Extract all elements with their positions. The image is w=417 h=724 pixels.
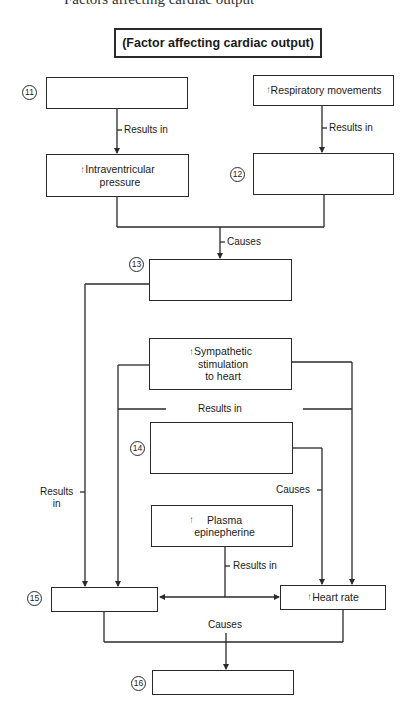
blank-number-14: 14 <box>130 441 145 456</box>
blank-number-12: 12 <box>230 167 245 182</box>
label-results-in-side: Results in <box>40 486 73 510</box>
increase-arrow-icon: ↑ <box>308 591 312 604</box>
label-causes-top: Causes <box>227 236 261 248</box>
plasma-epinepherine-text: Plasma epinepherine <box>194 514 255 539</box>
answer-box-13[interactable] <box>149 259 292 301</box>
diagram-title: (Factor affecting cardiac output) <box>122 37 314 50</box>
diagram-title-box: (Factor affecting cardiac output) <box>114 28 322 58</box>
sympathetic-stimulation-box: ↑ Sympathetic stimulation to heart <box>149 338 292 390</box>
blank-number-11: 11 <box>22 85 37 100</box>
plasma-epinepherine-box: ↑ Plasma epinepherine <box>151 505 293 547</box>
label-results-in-right: Results in <box>329 122 373 134</box>
respiratory-movements-text: Respiratory movements <box>271 84 382 97</box>
blank-number-16: 16 <box>131 676 146 691</box>
intraventricular-pressure-box: ↑ Intraventricular pressure <box>46 154 189 197</box>
blank-number-13: 13 <box>129 257 144 272</box>
heart-rate-box: ↑ Heart rate <box>280 585 386 610</box>
respiratory-movements-box: ↑ Respiratory movements <box>253 75 394 106</box>
label-causes-bottom: Causes <box>208 619 242 631</box>
increase-arrow-icon: ↑ <box>81 164 85 177</box>
label-results-in-plasma: Results in <box>233 560 277 572</box>
sympathetic-stimulation-text: Sympathetic stimulation to heart <box>194 345 252 383</box>
answer-box-16[interactable] <box>152 670 294 695</box>
increase-arrow-icon: ↑ <box>190 514 194 527</box>
heart-rate-text: Heart rate <box>312 591 359 604</box>
increase-arrow-icon: ↑ <box>190 346 194 359</box>
label-causes-right: Causes <box>276 484 310 496</box>
answer-box-14[interactable] <box>150 422 293 474</box>
label-results-in-left: Results in <box>124 124 168 136</box>
increase-arrow-icon: ↑ <box>266 84 270 97</box>
blank-number-15: 15 <box>27 591 42 606</box>
answer-box-12[interactable] <box>253 153 394 195</box>
intraventricular-pressure-text: Intraventricular pressure <box>85 163 154 188</box>
answer-box-15[interactable] <box>51 587 158 612</box>
answer-box-11[interactable] <box>46 77 188 109</box>
label-results-in-middle: Results in <box>198 403 242 415</box>
